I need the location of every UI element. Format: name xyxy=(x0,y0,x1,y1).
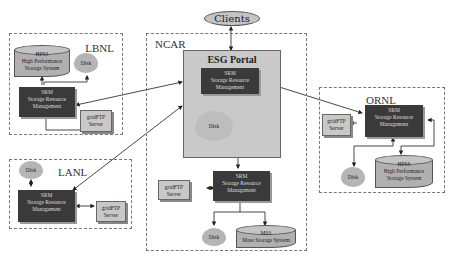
ncar-disk-label: Disk xyxy=(209,234,219,240)
esg-portal-label: ESG Portal xyxy=(184,54,280,65)
clients-node: Clients xyxy=(204,11,260,26)
lbnl-hpss-line2: Storage System xyxy=(14,65,70,72)
ornl-srm: SRM Storage Resource Management xyxy=(365,105,423,137)
ncar-mss: MSS Mass Storage System xyxy=(236,225,296,248)
ornl-hpss-line2: Storage System xyxy=(375,175,433,182)
ncar-srm-line2: Management xyxy=(213,187,270,194)
lanl-srm: SRM Storage Resource Management xyxy=(18,190,75,222)
lbnl-srm: SRM Storage Resource Management xyxy=(19,87,75,117)
lbnl-disk-label: Disk xyxy=(81,60,91,66)
ornl-srm-title: SRM xyxy=(365,107,423,114)
ornl-disk: Disk xyxy=(341,167,365,187)
ornl-srm-line1: Storage Resource xyxy=(365,114,423,121)
ornl-srm-line2: Management xyxy=(365,121,423,128)
ncar-gridftp-line2: Server xyxy=(159,191,189,198)
portal-srm: SRM Storage Resource Management xyxy=(201,68,259,94)
lanl-gridftp: gridFTP Server xyxy=(96,201,126,222)
lbnl-hpss: HPSS High Performance Storage System xyxy=(14,45,70,77)
ncar-srm: SRM Storage Resource Management xyxy=(213,171,270,201)
lanl-gridftp-line1: gridFTP xyxy=(97,205,125,212)
lanl-srm-title: SRM xyxy=(18,192,75,199)
portal-srm-line2: Management xyxy=(201,84,259,91)
ornl-gridftp-line2: Server xyxy=(323,125,350,132)
lanl-srm-line2: Management xyxy=(18,206,75,213)
lbnl-hpss-line1: High Performance xyxy=(14,58,70,65)
ornl-gridftp: gridFTP Server xyxy=(322,114,351,136)
ncar-mss-title: MSS xyxy=(236,230,296,237)
portal-srm-title: SRM xyxy=(201,70,259,77)
ncar-label: NCAR xyxy=(155,38,186,50)
ncar-srm-line1: Storage Resource xyxy=(213,180,270,187)
ncar-disk: Disk xyxy=(202,228,226,246)
lbnl-gridftp: gridFTP Server xyxy=(80,110,112,132)
ornl-disk-label: Disk xyxy=(348,174,358,180)
ncar-gridftp-line1: gridFTP xyxy=(159,184,189,191)
ncar-srm-title: SRM xyxy=(213,173,270,180)
lbnl-srm-title: SRM xyxy=(19,89,75,96)
lanl-gridftp-line2: Server xyxy=(97,212,125,219)
ornl-hpss-line1: High Performance xyxy=(375,168,433,175)
lbnl-label: LBNL xyxy=(85,42,114,54)
lanl-label: LANL xyxy=(58,166,87,178)
portal-srm-line1: Storage Resource xyxy=(201,77,259,84)
lanl-srm-line1: Storage Resource xyxy=(18,199,75,206)
ornl-gridftp-line1: gridFTP xyxy=(323,118,350,125)
esg-portal: ESG Portal xyxy=(183,50,281,158)
lanl-disk: Disk xyxy=(19,161,43,179)
lanl-disk-label: Disk xyxy=(26,167,36,173)
ornl-hpss: HPSS High Performance Storage System xyxy=(375,155,433,188)
ornl-hpss-title: HPSS xyxy=(375,161,433,168)
lbnl-disk: Disk xyxy=(74,53,98,73)
lbnl-gridftp-line1: gridFTP xyxy=(81,114,111,121)
ncar-gridftp: gridFTP Server xyxy=(158,180,190,200)
portal-disk-label: Disk xyxy=(209,123,219,129)
ncar-mss-line1: Mass Storage System xyxy=(236,237,296,244)
clients-label: Clients xyxy=(214,13,250,24)
lbnl-hpss-title: HPSS xyxy=(14,51,70,58)
lbnl-srm-line1: Storage Resource xyxy=(19,96,75,103)
portal-disk: Disk xyxy=(195,111,233,141)
lbnl-gridftp-line2: Server xyxy=(81,121,111,128)
lbnl-srm-line2: Management xyxy=(19,103,75,110)
